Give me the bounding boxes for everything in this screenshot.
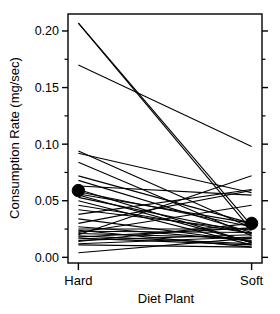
y-tick-label-2: 0.10: [35, 138, 59, 152]
x-axis-tick-labels: HardSoft: [64, 273, 263, 288]
y-tick-label-4: 0.20: [35, 24, 59, 38]
y-tick-label-1: 0.05: [35, 194, 59, 208]
x-tick-label-soft: Soft: [240, 273, 264, 288]
x-tick-label-hard: Hard: [64, 273, 92, 288]
y-tick-label-0: 0.00: [35, 251, 59, 265]
x-axis-label: Diet Plant: [138, 291, 195, 306]
mean-marker-soft: [245, 217, 257, 229]
consumption-rate-figure: 0.000.050.100.150.20 HardSoft Consumptio…: [0, 0, 280, 314]
y-axis-ticks-right: [262, 31, 268, 257]
y-tick-label-3: 0.15: [35, 81, 59, 95]
chart-canvas: 0.000.050.100.150.20 HardSoft Consumptio…: [0, 0, 280, 314]
mean-marker-hard: [72, 184, 84, 196]
y-axis-label: Consumption Rate (mg/sec): [7, 57, 22, 219]
y-axis-ticks: [62, 31, 68, 257]
x-axis-ticks: [78, 263, 251, 270]
y-axis-tick-labels: 0.000.050.100.150.20: [35, 24, 59, 264]
